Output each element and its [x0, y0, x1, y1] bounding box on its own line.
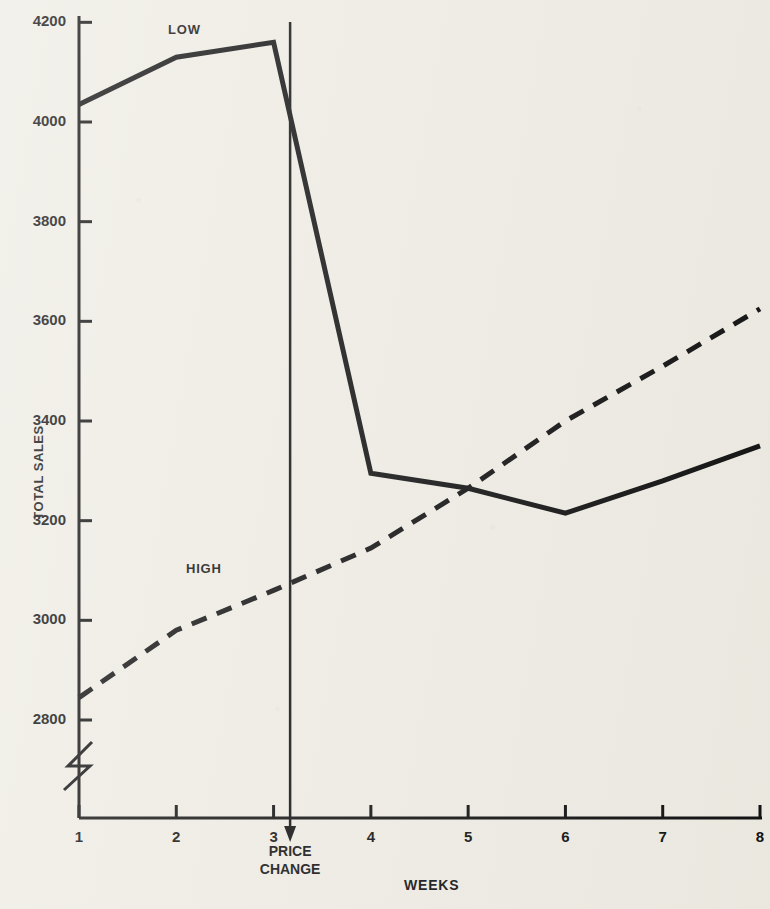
y-tick-label-3600: 3600 [0, 311, 66, 328]
y-tick-label-3000: 3000 [0, 610, 66, 627]
series-label-low: LOW [168, 22, 201, 37]
x-tick-label-6: 6 [545, 828, 585, 845]
series-line-high [79, 309, 760, 698]
price-change-line2: CHANGE [240, 861, 340, 879]
x-tick-label-5: 5 [448, 828, 488, 845]
series-label-high: HIGH [186, 561, 222, 576]
price-change-line1: PRICE [240, 843, 340, 861]
chart-figure: 28003000320034003600380040004200 1234567… [0, 0, 770, 909]
x-axis-ticks [79, 805, 760, 818]
y-axis-ticks [79, 22, 92, 720]
y-axis-title: TOTAL SALES [31, 413, 46, 533]
x-axis-title: WEEKS [404, 877, 459, 893]
x-tick-label-2: 2 [156, 828, 196, 845]
y-tick-label-2800: 2800 [0, 710, 66, 727]
y-tick-label-4000: 4000 [0, 112, 66, 129]
x-tick-label-1: 1 [59, 828, 99, 845]
x-tick-label-4: 4 [351, 828, 391, 845]
price-change-annotation: PRICE CHANGE [240, 843, 340, 878]
y-tick-label-3800: 3800 [0, 212, 66, 229]
series-line-low [79, 42, 760, 513]
axes-group [64, 16, 762, 818]
y-tick-label-4200: 4200 [0, 12, 66, 29]
line-chart-canvas [0, 0, 770, 909]
x-tick-label-8: 8 [740, 828, 770, 845]
x-tick-label-7: 7 [643, 828, 683, 845]
